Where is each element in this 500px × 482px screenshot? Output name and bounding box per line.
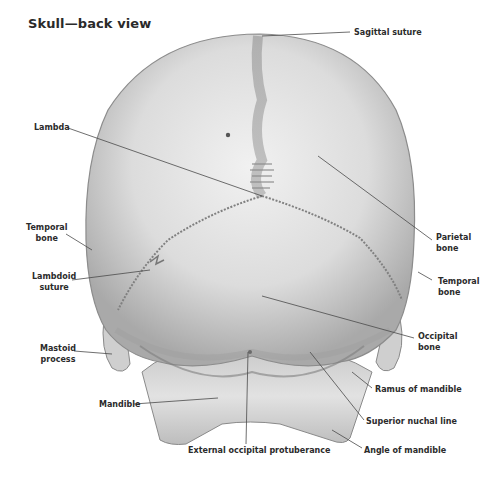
label-mastoid-process: Mastoid process (40, 343, 76, 365)
label-ramus-of-mandible: Ramus of mandible (375, 384, 462, 395)
skull-illustration (0, 0, 500, 482)
label-occipital-line-1: Occipital (418, 331, 457, 342)
label-temporal-left-line-1: Temporal (26, 222, 67, 233)
label-occipital-bone: Occipital bone (418, 331, 457, 353)
label-mastoid-line-2: process (40, 354, 76, 365)
label-parietal-line-1: Parietal (436, 232, 471, 243)
label-mastoid-line-1: Mastoid (40, 343, 76, 354)
label-temporal-right-line-2: bone (438, 287, 479, 298)
label-temporal-right-line-1: Temporal (438, 276, 479, 287)
label-lambda: Lambda (34, 122, 70, 133)
label-lambdoid-line-2: suture (32, 282, 76, 293)
label-angle-of-mandible: Angle of mandible (364, 445, 446, 456)
sagittal-suture-line (256, 36, 262, 196)
label-temporal-left-line-2: bone (26, 233, 67, 244)
label-temporal-bone-left: Temporal bone (26, 222, 67, 244)
label-occipital-line-2: bone (418, 342, 457, 353)
label-lambdoid-line-1: Lambdoid (32, 271, 76, 282)
label-parietal-line-2: bone (436, 243, 471, 254)
label-external-occipital-protuberance: External occipital protuberance (188, 445, 330, 456)
label-superior-nuchal-line: Superior nuchal line (366, 416, 457, 427)
label-mandible: Mandible (99, 399, 140, 410)
label-temporal-bone-right: Temporal bone (438, 276, 479, 298)
label-lambdoid-suture: Lambdoid suture (32, 271, 76, 293)
label-sagittal-suture: Sagittal suture (354, 27, 422, 38)
label-parietal-bone: Parietal bone (436, 232, 471, 254)
